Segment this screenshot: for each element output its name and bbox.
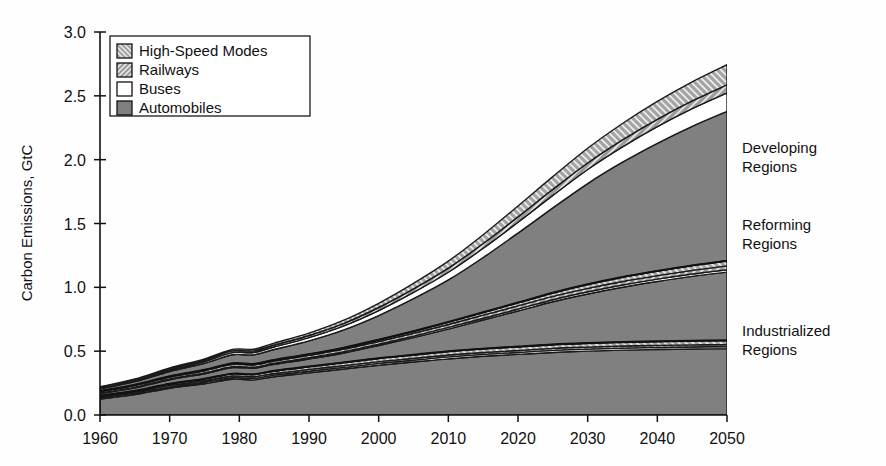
- y-axis-title: Carbon Emissions, GtC: [18, 144, 35, 301]
- y-tick-label: 3.0: [64, 24, 86, 41]
- annotation-reforming-regions: Reforming: [742, 216, 811, 233]
- stacked-area-bands: [100, 65, 727, 415]
- legend-label-automobiles: Automobiles: [139, 99, 222, 116]
- legend-label-buses: Buses: [139, 80, 181, 97]
- x-tick-label: 1960: [82, 430, 118, 447]
- annotation-industrialized-regions: Industrialized: [742, 322, 830, 339]
- x-tick-label: 2030: [570, 430, 606, 447]
- legend-swatch-automobiles: [117, 101, 132, 115]
- legend-swatch-high-speed-modes: [117, 44, 132, 58]
- y-tick-label: 1.5: [64, 216, 86, 233]
- legend-label-railways: Railways: [139, 61, 199, 78]
- legend-label-high-speed-modes: High-Speed Modes: [139, 42, 267, 59]
- x-tick-label: 2020: [500, 430, 536, 447]
- legend-swatch-buses: [117, 82, 132, 96]
- annotation-developing-regions: Developing: [742, 139, 817, 156]
- x-tick-label: 2000: [361, 430, 397, 447]
- x-tick-label: 1970: [152, 430, 188, 447]
- region-annotations: DevelopingRegionsReformingRegionsIndustr…: [742, 139, 830, 358]
- y-tick-label: 0.5: [64, 343, 86, 360]
- annotation-line2: Regions: [742, 341, 797, 358]
- annotation-line2: Regions: [742, 235, 797, 252]
- legend-swatch-railways: [117, 63, 132, 77]
- x-tick-label: 1980: [222, 430, 258, 447]
- chart-figure: 0.00.51.01.52.02.53.01960197019801990200…: [0, 0, 886, 466]
- y-tick-label: 2.0: [64, 152, 86, 169]
- y-tick-label: 0.0: [64, 407, 86, 424]
- carbon-emissions-stacked-area-chart: 0.00.51.01.52.02.53.01960197019801990200…: [0, 0, 886, 466]
- y-tick-label: 1.0: [64, 279, 86, 296]
- chart-legend: High-Speed ModesRailwaysBusesAutomobiles: [110, 36, 310, 116]
- x-tick-label: 1990: [291, 430, 327, 447]
- x-tick-label: 2040: [640, 430, 676, 447]
- annotation-line2: Regions: [742, 158, 797, 175]
- x-tick-label: 2050: [709, 430, 745, 447]
- y-tick-label: 2.5: [64, 88, 86, 105]
- x-tick-label: 2010: [431, 430, 467, 447]
